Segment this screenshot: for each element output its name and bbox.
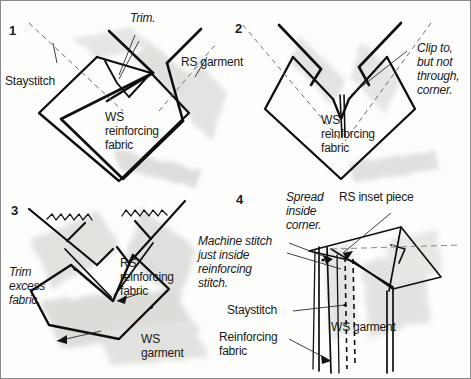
panel-1-label-ws-line2: reinforcing — [105, 125, 159, 137]
panel-2-label-clip-line3: through, — [417, 70, 459, 82]
panel-4-label-spread-line1: Spread — [286, 191, 324, 203]
panel-1-label-trim: Trim. — [130, 12, 155, 24]
panel-1-label-staystitch: Staystitch — [5, 75, 55, 87]
panel-4-label-machine-line2: just inside — [198, 249, 249, 261]
panel-3-label-ws-garment-line1: WS — [141, 333, 160, 345]
panel-3-label-trim-line1: Trim — [9, 266, 31, 278]
panel-4-label-machine-line4: stitch. — [198, 277, 228, 289]
panel-4-label-reinforcing-line1: Reinforcing — [219, 331, 278, 343]
panel-2-label-ws-line2: reinforcing — [321, 128, 375, 140]
panel-4-label-machine-line3: reinforcing — [198, 263, 252, 275]
panel-2-label-ws-line1: WS — [321, 114, 340, 126]
panel-2-number: 2 — [235, 22, 242, 35]
panel-3-artwork — [29, 201, 209, 367]
panel-1-number: 1 — [9, 24, 16, 37]
panel-1-label-rs-garment: RS garment — [181, 56, 243, 68]
panel-3-label-rs-line1: RS — [120, 257, 136, 269]
panel-4-dot-staystitch — [343, 303, 346, 306]
panel-3-label-rs-line2: reinforcing — [120, 271, 174, 283]
panel-4-label-spread-line2: inside — [286, 205, 316, 217]
panel-4-dot — [321, 258, 324, 261]
panel-3-label-ws-garment-line2: garment — [141, 347, 184, 359]
panel-2-label-ws-line3: fabric — [321, 142, 349, 154]
panel-4-label-ws-garment: WS garment — [331, 321, 396, 333]
panel-4-label-staystitch: Staystitch — [227, 304, 277, 316]
panel-3-label-trim-line3: fabric. — [9, 294, 40, 306]
panel-2-label-clip-line2: but not — [417, 56, 452, 68]
panel-4-artwork — [287, 213, 461, 373]
panel-3-label-trim-line2: excess — [9, 280, 45, 292]
panel-1-label-ws-line1: WS — [105, 111, 124, 123]
panel-2-label-clip-line1: Clip to, — [417, 42, 453, 54]
panel-1-label-ws-line3: fabric — [105, 139, 133, 151]
panel-2-artwork — [243, 23, 441, 183]
panel-4-number: 4 — [236, 193, 243, 206]
panel-1-artwork — [29, 23, 227, 187]
panel-3-number: 3 — [11, 204, 18, 217]
panel-3-label-rs-line3: fabric — [120, 285, 148, 297]
panel-4-label-machine-line1: Machine stitch — [198, 235, 272, 247]
panel-2-label-clip-line4: corner. — [417, 84, 453, 96]
panel-4-label-spread-line3: corner. — [286, 219, 322, 231]
panel-4-label-reinforcing-line2: fabric — [219, 345, 247, 357]
sewing-diagram-sheet: 1 Staystitch Trim. RS garment WS reinfor… — [0, 0, 471, 379]
panel-4-label-rs-inset-piece: RS inset piece — [339, 191, 414, 203]
